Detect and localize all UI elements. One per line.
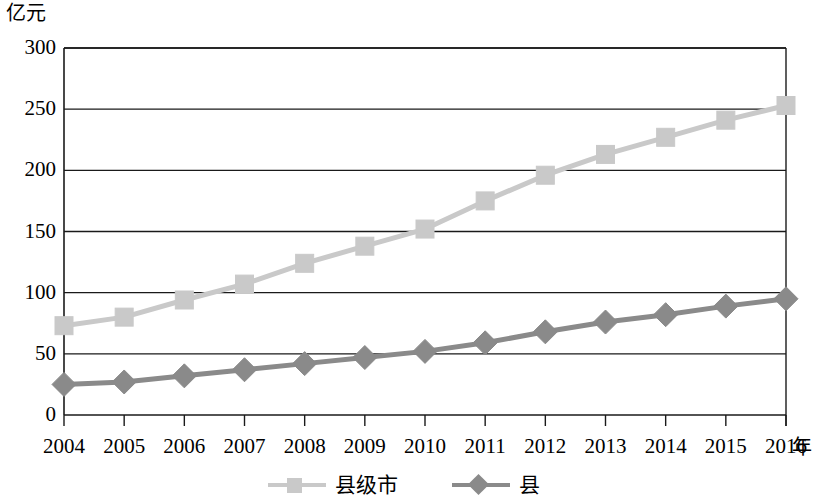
x-tick-label-2004: 2004	[32, 436, 96, 457]
legend-marker	[287, 478, 302, 493]
legend-entry-1[interactable]: 县	[452, 474, 540, 496]
x-tick-label-2014: 2014	[634, 436, 698, 457]
legend-marker	[468, 473, 489, 494]
x-tick-label-2009: 2009	[333, 436, 397, 457]
x-tick-label-2008: 2008	[273, 436, 337, 457]
x-tick-label-2005: 2005	[92, 436, 156, 457]
x-tick-label-2015: 2015	[694, 436, 758, 457]
legend-label-0: 县级市	[335, 475, 398, 496]
x-axis-unit-label: 年	[792, 437, 812, 458]
legend-label-1: 县	[519, 475, 540, 496]
x-tick-label-2010: 2010	[393, 436, 457, 457]
x-tick-label-2007: 2007	[213, 436, 277, 457]
x-tick-label-2006: 2006	[152, 436, 216, 457]
legend-square-marker-icon	[268, 474, 326, 496]
legend-entry-0[interactable]: 县级市	[268, 474, 398, 496]
x-tick-label-2011: 2011	[453, 436, 517, 457]
chart-legend: 县级市县	[0, 466, 808, 503]
legend-diamond-marker-icon	[452, 474, 510, 496]
x-tick-label-2013: 2013	[574, 436, 638, 457]
x-tick-label-2012: 2012	[513, 436, 577, 457]
